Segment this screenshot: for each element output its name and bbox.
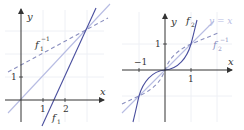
- left-x-tick-2: 2: [63, 104, 69, 114]
- right-panel: y x −1 1 1 f 2 y = x f 2 −1: [122, 12, 234, 122]
- left-inverse-curve: [8, 18, 108, 72]
- right-function-label: f 2: [185, 15, 195, 28]
- svg-text:2: 2: [191, 21, 195, 28]
- svg-text:1: 1: [57, 118, 61, 125]
- right-identity-label: y = x: [208, 16, 232, 26]
- left-x-tick-1: 1: [40, 104, 46, 114]
- right-grid: [122, 12, 232, 122]
- svg-text:−1: −1: [220, 36, 229, 43]
- svg-text:2: 2: [218, 45, 222, 52]
- right-y-tick-1: 1: [155, 39, 161, 49]
- right-x-axis-label: x: [228, 56, 234, 67]
- left-function-curve: [42, 8, 96, 126]
- right-x-tick-1: 1: [188, 74, 194, 84]
- left-function-label: f 1: [51, 112, 61, 125]
- right-identity-line: [122, 21, 214, 113]
- left-panel: y x 1 2 1 f 1 −1 f 1: [5, 4, 110, 126]
- svg-text:1: 1: [40, 45, 44, 52]
- left-inverse-label: f 1 −1: [34, 35, 50, 52]
- left-identity-line: [8, 4, 110, 113]
- left-y-axis-label: y: [26, 11, 33, 22]
- right-x-tick-neg1: −1: [134, 57, 147, 67]
- svg-text:−1: −1: [41, 35, 50, 42]
- left-y-tick-1: 1: [11, 72, 17, 82]
- left-x-axis-label: x: [100, 86, 106, 97]
- inverse-functions-figure: y x 1 2 1 f 1 −1 f 1: [0, 0, 244, 130]
- right-y-axis-label: y: [170, 16, 177, 27]
